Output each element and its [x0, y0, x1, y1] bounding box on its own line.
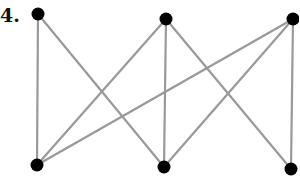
bipartite-graph: [0, 0, 299, 185]
node-bottom-right: [285, 163, 298, 176]
node-top-right: [287, 13, 300, 26]
edge-top-left-bottom-left: [37, 14, 38, 165]
node-top-middle: [160, 13, 173, 26]
node-bottom-middle: [158, 161, 171, 174]
edge-top-right-bottom-right: [291, 19, 293, 169]
node-bottom-left: [31, 159, 44, 172]
edge-top-middle-bottom-left: [37, 19, 166, 165]
node-top-left: [32, 8, 45, 21]
